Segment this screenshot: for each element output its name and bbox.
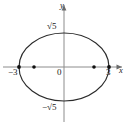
y-axis-group — [62, 5, 67, 122]
ellipse-figure: y x √5 −√5 −3 3 0 — [0, 0, 128, 126]
point-left-focus — [32, 65, 36, 69]
right-vertex-label: 3 — [106, 68, 111, 77]
top-vertex-label: √5 — [47, 22, 56, 31]
figure-canvas — [0, 0, 128, 126]
y-axis-label: y — [60, 1, 64, 10]
left-vertex-label: −3 — [8, 68, 18, 77]
point-right-focus — [92, 65, 96, 69]
bottom-vertex-label: −√5 — [42, 103, 57, 112]
x-axis-label: x — [119, 66, 123, 75]
origin-label: 0 — [57, 68, 62, 77]
